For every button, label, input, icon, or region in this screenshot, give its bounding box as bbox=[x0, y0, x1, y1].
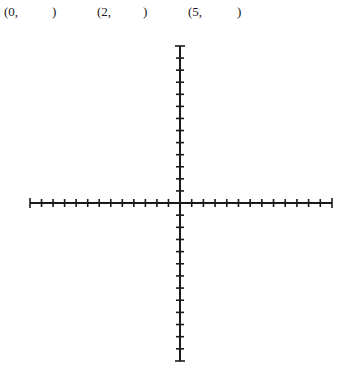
coordinate-plane bbox=[0, 0, 348, 380]
